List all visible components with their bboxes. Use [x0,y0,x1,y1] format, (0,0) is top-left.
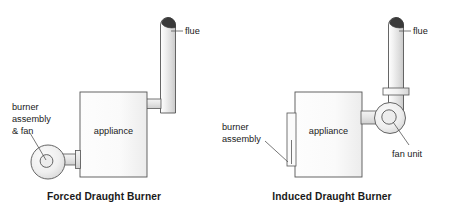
right-burner-label: burner assembly [222,122,261,144]
left-burner-fan-housing [31,145,65,179]
right-burner-label-line2: assembly [222,134,261,144]
right-diagram-group: appliance burner assembly fan unit [222,18,428,203]
right-flue-collar [383,88,409,95]
left-burner-label-line3: & fan [12,126,33,136]
left-fan-hub [40,155,53,168]
left-diagram-group: appliance burner assembly & fan flue For… [12,18,200,203]
right-flue-label: flue [413,26,428,36]
left-flue-connector-duct [146,99,161,109]
right-fan-hub [382,110,396,124]
boiler-draught-diagram: appliance burner assembly & fan flue For… [0,0,452,209]
right-burner-leader-line [265,141,288,162]
right-fan-label-group: fan unit [392,122,423,159]
right-fan-unit-housing [375,103,406,134]
right-appliance-label: appliance [309,126,348,136]
right-appliance: appliance [295,92,362,177]
left-burner-label-line2: assembly [12,114,51,124]
left-burner-label: burner assembly & fan [12,102,51,136]
left-flue [161,18,176,114]
diagram-canvas: appliance burner assembly & fan flue For… [0,0,452,209]
right-caption: Induced Draught Burner [272,191,391,202]
left-caption: Forced Draught Burner [47,191,161,202]
left-appliance: appliance [80,92,147,177]
left-flue-label: flue [185,26,200,36]
right-fan-label: fan unit [392,149,423,159]
left-appliance-label: appliance [94,126,133,136]
right-burner-assembly-plate [287,113,296,166]
right-burner-label-line1: burner [222,122,249,132]
left-burner-label-line1: burner [12,102,39,112]
